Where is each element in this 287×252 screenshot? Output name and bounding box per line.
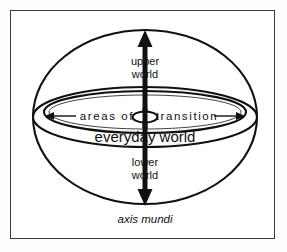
upper-world-label-line1: upper	[131, 55, 159, 67]
axis-mundi-diagram: upper world areas of transition everyday…	[0, 0, 287, 252]
lower-world-label-line2: world	[131, 169, 158, 181]
everyday-world-label: everyday world	[95, 128, 196, 145]
lower-world-label-line1: lower	[132, 156, 159, 168]
axis-mundi-caption: axis mundi	[118, 213, 173, 225]
figure-root: upper world areas of transition everyday…	[0, 0, 287, 252]
transition-label: transition	[156, 110, 219, 122]
areas-of-label: areas of	[80, 110, 134, 122]
axis-hub-shaft-overlay	[143, 108, 148, 128]
upper-world-label-line2: world	[131, 68, 158, 80]
